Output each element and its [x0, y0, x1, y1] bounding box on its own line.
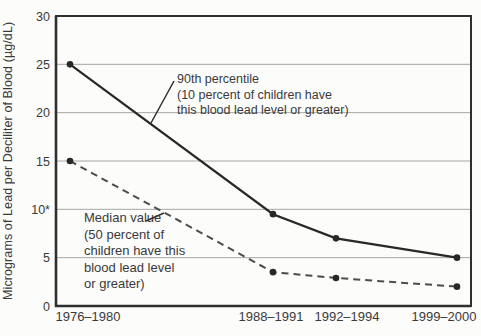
- y-tick-label-25: 25: [36, 58, 50, 72]
- y-tick-label-15: 15: [36, 155, 50, 169]
- y-tick-label-20: 20: [36, 106, 50, 120]
- x-tick-label-2: 1992–1994: [314, 309, 379, 324]
- data-point-median-0: [67, 158, 74, 165]
- y-tick-label-10: 10*: [31, 203, 50, 217]
- x-tick-label-3: 1999–2000: [411, 309, 476, 324]
- annotation-leader-0: [151, 81, 174, 123]
- annotation-90th-percentile: 90th percentile (10 percent of children …: [177, 72, 349, 119]
- data-point-median-2: [333, 275, 340, 282]
- y-tick-label-5: 5: [43, 251, 50, 265]
- y-axis-title: Micrograms of Lead per Deciliter of Bloo…: [1, 16, 15, 306]
- x-tick-label-0: 1976–1980: [55, 309, 120, 324]
- data-point-90th-percentile-3: [454, 254, 461, 261]
- data-point-90th-percentile-2: [333, 235, 340, 242]
- y-tick-label-30: 30: [36, 10, 50, 24]
- data-point-median-3: [454, 283, 461, 290]
- data-point-90th-percentile-0: [67, 61, 74, 68]
- chart-canvas: 3025201510*501976–19801988–19911992–1994…: [0, 0, 481, 336]
- data-point-median-1: [270, 269, 277, 276]
- annotation-median-value: Median value (50 percent of children hav…: [84, 210, 185, 293]
- blood-lead-levels-chart: 3025201510*501976–19801988–19911992–1994…: [0, 0, 481, 336]
- y-tick-label-0: 0: [43, 300, 50, 314]
- x-tick-label-1: 1988–1991: [238, 309, 303, 324]
- data-point-90th-percentile-1: [270, 211, 277, 218]
